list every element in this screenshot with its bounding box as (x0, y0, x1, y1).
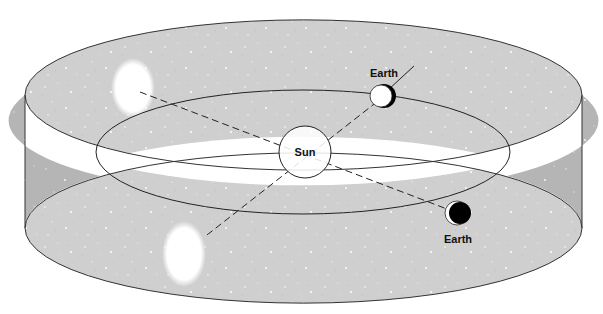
apparent-position-lower (162, 221, 206, 287)
apparent-position-upper (111, 58, 155, 118)
sun: Sun (279, 126, 331, 178)
earth-top-label: Earth (370, 67, 398, 79)
earth-bottom-label: Earth (444, 233, 472, 245)
diagram-canvas: Sun Earth Earth (0, 0, 603, 314)
orbit-diagram: Sun Earth Earth (0, 0, 603, 314)
sun-label: Sun (295, 146, 316, 158)
